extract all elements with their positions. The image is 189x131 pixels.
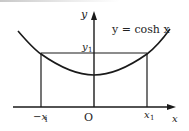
y-axis-label: y bbox=[80, 8, 88, 21]
pos-x1-label: x 1 bbox=[144, 109, 154, 122]
cosh-diagram: y y = cosh x y 1 −x 1 O x 1 x bbox=[0, 0, 189, 131]
x-axis-label: x bbox=[172, 113, 178, 124]
y-axis bbox=[91, 11, 97, 107]
neg-x1-label: −x 1 bbox=[33, 111, 48, 124]
svg-text:1: 1 bbox=[44, 116, 48, 124]
svg-text:y: y bbox=[81, 41, 88, 52]
svg-text:1: 1 bbox=[88, 46, 92, 54]
svg-text:1: 1 bbox=[150, 114, 154, 122]
y1-label: y 1 bbox=[81, 41, 92, 54]
origin-label: O bbox=[84, 111, 93, 124]
function-label: y = cosh x bbox=[111, 23, 170, 36]
x-axis-arrow-icon bbox=[167, 104, 176, 110]
y-axis-arrow-icon bbox=[91, 11, 97, 20]
